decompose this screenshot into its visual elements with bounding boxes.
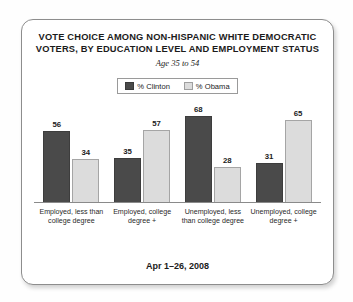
- chart-subtitle: Age 35 to 54: [32, 58, 323, 68]
- bar-column: 68: [185, 100, 212, 203]
- bar-value-label: 34: [82, 149, 91, 157]
- category-label: Employed, less than college degree: [36, 205, 107, 239]
- bar-value-label: 56: [53, 121, 62, 129]
- bar-column: 56: [43, 100, 70, 203]
- bar[interactable]: [43, 131, 70, 203]
- bar-value-label: 65: [294, 110, 303, 118]
- bar-group: 5634: [36, 100, 107, 203]
- bar-group: 6828: [178, 100, 249, 203]
- chart-title-block: VOTE CHOICE AMONG NON-HISPANIC WHITE DEM…: [32, 31, 323, 68]
- chart-title-line-2: VOTERS, BY EDUCATION LEVEL AND EMPLOYMEN…: [32, 43, 323, 55]
- bar-value-label: 57: [152, 120, 161, 128]
- legend-swatch-clinton-icon: [125, 82, 134, 90]
- bar-group: 3165: [248, 100, 319, 203]
- legend-swatch-obama-icon: [184, 82, 193, 90]
- bar-column: 31: [256, 100, 283, 203]
- bar[interactable]: [72, 159, 99, 203]
- bar[interactable]: [214, 167, 241, 203]
- legend-label-clinton: % Clinton: [137, 82, 170, 91]
- bar-value-label: 68: [194, 106, 203, 114]
- chart-card: VOTE CHOICE AMONG NON-HISPANIC WHITE DEM…: [21, 19, 334, 285]
- bar-column: 28: [214, 100, 241, 203]
- chart-legend: % Clinton % Obama: [117, 78, 237, 94]
- chart-page: VOTE CHOICE AMONG NON-HISPANIC WHITE DEM…: [0, 0, 353, 302]
- x-axis-line: [34, 202, 321, 203]
- bar[interactable]: [285, 120, 312, 203]
- legend-label-obama: % Obama: [196, 82, 230, 91]
- bar[interactable]: [114, 158, 141, 203]
- bar-value-label: 35: [123, 148, 132, 156]
- plot-area: 5634355768283165 Employed, less than col…: [32, 100, 323, 261]
- bar-value-label: 31: [265, 153, 274, 161]
- bar-column: 34: [72, 100, 99, 203]
- legend-wrapper: % Clinton % Obama: [32, 78, 323, 94]
- chart-title-line-1: VOTE CHOICE AMONG NON-HISPANIC WHITE DEM…: [32, 31, 323, 43]
- legend-item-obama[interactable]: % Obama: [184, 82, 230, 91]
- bar-column: 57: [143, 100, 170, 203]
- legend-item-clinton[interactable]: % Clinton: [125, 82, 170, 91]
- bar-group: 3557: [107, 100, 178, 203]
- category-label: Employed, college degree +: [107, 205, 178, 239]
- category-label: Unemployed, college degree +: [248, 205, 319, 239]
- bar-groups: 5634355768283165: [36, 100, 319, 203]
- bar[interactable]: [256, 163, 283, 203]
- category-labels: Employed, less than college degreeEmploy…: [36, 205, 319, 239]
- bar-column: 65: [285, 100, 312, 203]
- bar-column: 35: [114, 100, 141, 203]
- category-label: Unemployed, less than college degree: [178, 205, 249, 239]
- bar-value-label: 28: [223, 157, 232, 165]
- bar[interactable]: [185, 116, 212, 203]
- bar[interactable]: [143, 130, 170, 203]
- chart-footer: Apr 1–26, 2008: [32, 261, 323, 278]
